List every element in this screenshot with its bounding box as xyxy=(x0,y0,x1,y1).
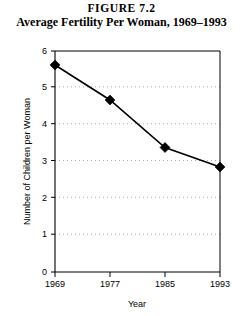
x-tick-label-1969: 1969 xyxy=(45,279,65,289)
x-tick-label-1985: 1985 xyxy=(155,279,175,289)
y-tick-label-4: 4 xyxy=(42,119,47,129)
y-tick-label-0: 0 xyxy=(42,267,47,277)
y-tick-label-3: 3 xyxy=(42,156,47,166)
plot-background xyxy=(55,51,220,272)
x-axis: 1969 1977 1985 1993 xyxy=(45,272,230,289)
y-axis: 0 1 2 3 4 5 6 xyxy=(42,46,55,277)
x-tick-label-1993: 1993 xyxy=(210,279,230,289)
y-tick-label-5: 5 xyxy=(42,82,47,92)
x-axis-title: Year xyxy=(128,299,146,309)
y-tick-label-1: 1 xyxy=(42,229,47,239)
y-tick-label-2: 2 xyxy=(42,193,47,203)
line-chart: 0 1 2 3 4 5 6 1969 1977 1985 1993 Year N… xyxy=(0,0,243,316)
chart-svg: 0 1 2 3 4 5 6 1969 1977 1985 1993 Year N… xyxy=(0,0,243,316)
x-tick-label-1977: 1977 xyxy=(100,279,120,289)
y-tick-label-6: 6 xyxy=(42,46,47,56)
y-axis-title: Number of Children per Woman xyxy=(22,98,32,225)
